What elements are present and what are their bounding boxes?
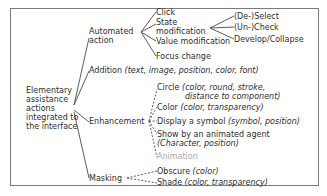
obscure-node: Obscure (color)	[157, 167, 219, 176]
shade-node: Shade (color, transparency)	[157, 178, 268, 187]
value-modification-node: Value modification	[156, 37, 230, 46]
automated-label: Automated	[89, 27, 133, 36]
symbol-params: (symbol, position)	[228, 117, 300, 126]
root-node: Elementary assistance actions integrated…	[26, 86, 78, 131]
addition-label: Addition	[89, 66, 122, 75]
root-line: integrated to	[26, 113, 78, 122]
automated-action-node: Automated action	[89, 27, 133, 45]
animation-node: Animation	[157, 152, 198, 161]
agent-params: (Character, position)	[157, 139, 239, 148]
display-symbol-node: Display a symbol (symbol, position)	[157, 117, 300, 126]
color-node: Color (color, transparency)	[157, 103, 264, 112]
focus-change-node: Focus change	[156, 52, 211, 61]
color-params: (color, transparency)	[180, 103, 263, 112]
circle-label: Circle	[157, 83, 179, 92]
obscure-label: Obscure	[157, 167, 190, 176]
shade-params: (color, transparency)	[185, 178, 268, 187]
agent-label: Show by an animated agent	[157, 130, 270, 139]
color-label: Color	[157, 103, 178, 112]
enhancement-node: Enhancement	[89, 117, 144, 126]
animated-agent-node: Show by an animated agent (Character, po…	[157, 130, 270, 148]
circle-params: distance to component)	[185, 92, 280, 101]
symbol-label: Display a symbol	[157, 117, 225, 126]
develop-collapse-node: Develop/Collapse	[234, 35, 304, 44]
select-node: (De-)Select	[234, 12, 279, 21]
root-line: Elementary	[26, 86, 78, 95]
addition-params: (text, image, position, color, font)	[125, 66, 259, 75]
root-line: assistance	[26, 95, 78, 104]
obscure-params: (color)	[193, 167, 219, 176]
click-node: Click	[156, 8, 175, 17]
root-line: actions	[26, 104, 78, 113]
masking-node: Masking	[89, 174, 122, 183]
state-label: State	[156, 18, 206, 27]
circle-params: (color, round, stroke,	[182, 83, 265, 92]
check-node: (Un-)Check	[234, 23, 279, 32]
root-line: the interface	[26, 122, 78, 131]
addition-node: Addition (text, image, position, color, …	[89, 66, 259, 75]
state-label: modification	[156, 27, 206, 36]
state-modification-node: State modification	[156, 18, 206, 36]
automated-label: action	[89, 36, 133, 45]
circle-node: Circle (color, round, stroke, distance t…	[157, 83, 280, 101]
shade-label: Shade	[157, 178, 182, 187]
